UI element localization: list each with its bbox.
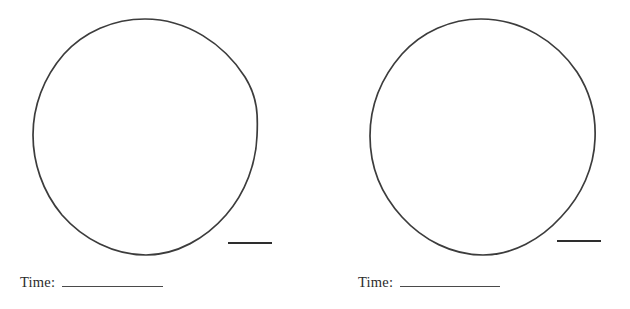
worksheet-page: Time: Time: — [0, 0, 630, 309]
clock-face-circle-right — [315, 0, 630, 270]
clock-panel-left: Time: — [0, 0, 315, 309]
clock-face-circle-left — [0, 0, 315, 270]
clock-drawing-area-left[interactable] — [0, 0, 315, 270]
time-label-right: Time: — [358, 273, 393, 291]
clock-panel-right: Time: — [315, 0, 630, 309]
time-input-blank-left[interactable] — [62, 272, 163, 287]
time-input-blank-right[interactable] — [400, 272, 500, 287]
time-field-left[interactable]: Time: — [20, 272, 163, 294]
time-field-right[interactable]: Time: — [358, 272, 500, 294]
time-label-left: Time: — [20, 273, 55, 291]
clock-drawing-area-right[interactable] — [315, 0, 630, 270]
